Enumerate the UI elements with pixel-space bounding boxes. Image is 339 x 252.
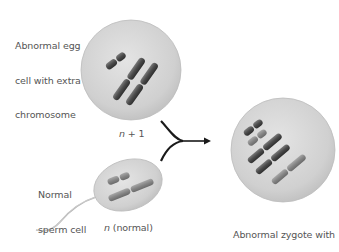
egg-label-line: Abnormal egg [15,40,81,52]
egg-label-line: cell with extra [15,75,81,87]
zygote-label-line: Abnormal zygote with [233,229,335,241]
fusion-arrow [161,121,211,161]
zygote-label: Abnormal zygote with extra chromosome 2n… [233,206,335,252]
sperm-label: Normal sperm cell [38,166,86,247]
zygote-cell [231,98,335,202]
sperm-cell [87,150,169,219]
egg-label: Abnormal egg cell with extra chromosome [15,17,81,132]
egg-label-line: chromosome [15,109,81,121]
ploidy-suffix: (normal) [110,222,153,233]
sperm-ploidy-label: n (normal) [104,222,153,234]
ploidy-suffix: + 1 [125,128,145,139]
egg-cell [81,20,181,120]
egg-ploidy-label: n + 1 [119,128,145,140]
sperm-label-line: sperm cell [38,224,86,236]
sperm-label-line: Normal [38,189,86,201]
